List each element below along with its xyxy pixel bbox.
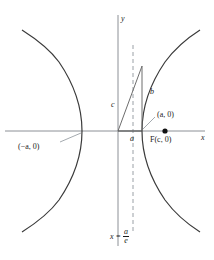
label-focus: F(c, 0)	[150, 136, 171, 144]
label-right-vertex: (a, 0)	[157, 111, 174, 119]
hyperbola-left-branch	[22, 30, 82, 131]
directrix-equation-equals: =	[116, 233, 121, 241]
directrix-equation-variable: x	[110, 233, 114, 241]
hyperbola-figure: y x c b a (−a, 0) (a, 0) F(c, 0) x = a e	[0, 0, 214, 260]
hyperbola-right-branch-lower	[142, 131, 200, 232]
segment-label-a: a	[130, 135, 134, 143]
triangle-hypotenuse-c	[118, 66, 142, 131]
leader-line-right-vertex	[143, 117, 155, 129]
y-axis-label: y	[121, 15, 125, 23]
segment-label-b: b	[150, 88, 154, 96]
x-axis-label: x	[201, 134, 205, 142]
figure-canvas	[0, 0, 214, 260]
focus-point-dot	[162, 128, 167, 133]
leader-line-left-vertex	[60, 133, 81, 142]
label-left-vertex: (−a, 0)	[18, 143, 39, 151]
segment-label-c: c	[111, 101, 115, 109]
directrix-fraction-denominator: e	[123, 237, 129, 245]
directrix-equation: x = a e	[110, 228, 129, 246]
directrix-equation-fraction: a e	[123, 228, 129, 246]
